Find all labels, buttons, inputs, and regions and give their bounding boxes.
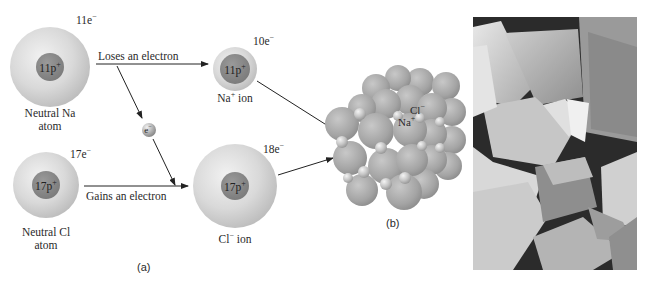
na-ion-label: Na+ ion — [205, 92, 265, 105]
nacl-crystal-lattice — [325, 65, 466, 210]
na-ion-electron-count: 10e− — [253, 35, 274, 47]
na-ion-nucleus-label: 11p+ — [224, 64, 245, 76]
neutral-cl-label: Neutral Cl atom — [6, 226, 86, 252]
cl-ion-electron-count: 18e− — [263, 143, 284, 155]
salt-crystal-micrograph — [473, 17, 637, 270]
cl-ion-label: Cl− ion — [205, 233, 265, 246]
loses-electron-label: Loses an electron — [98, 50, 178, 62]
electron-label: e− — [144, 125, 151, 135]
lattice-na-label: Na+ — [398, 116, 415, 128]
neutral-na-label: Neutral Na atom — [10, 107, 90, 133]
panel-b-label: (b) — [386, 217, 399, 229]
na-atom-nucleus-label: 11p+ — [39, 62, 60, 74]
gains-electron-label: Gains an electron — [86, 190, 166, 202]
cl-atom-electron-count: 17e− — [70, 148, 91, 160]
na-atom-electron-count: 11e− — [76, 14, 97, 26]
cl-ion-nucleus-label: 17p+ — [224, 181, 246, 193]
cl-atom-nucleus-label: 17p+ — [35, 180, 57, 192]
panel-a-label: (a) — [137, 261, 150, 273]
